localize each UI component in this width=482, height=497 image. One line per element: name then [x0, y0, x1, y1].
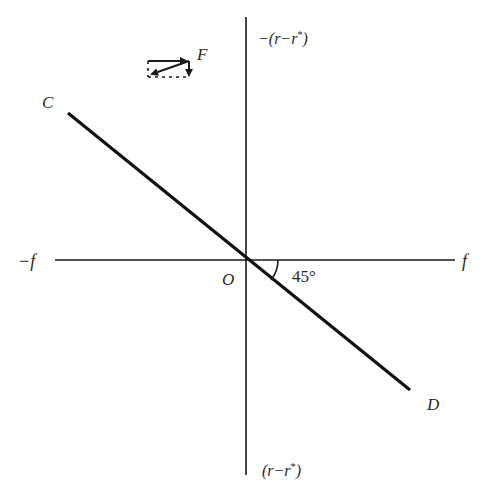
bottom-axis-label: (r−r*) — [262, 462, 301, 479]
top-axis-label-close: ) — [303, 30, 308, 47]
force-inset — [148, 61, 189, 77]
point-d-label: D — [427, 396, 439, 413]
point-c-label: C — [42, 94, 53, 111]
diagram-canvas: F C D −f f O 45° −(r−r*) (r−r*) — [0, 0, 482, 497]
angle-label: 45° — [292, 268, 316, 285]
bottom-axis-label-close: ) — [296, 462, 301, 479]
pos-f-axis-label: f — [462, 252, 467, 270]
top-axis-label: −(r−r*) — [258, 30, 308, 47]
origin-label: O — [222, 271, 234, 288]
force-label: F — [197, 46, 207, 63]
diagram-svg — [0, 0, 482, 497]
line-cd — [68, 113, 410, 390]
top-axis-label-text: −(r−r — [258, 30, 297, 47]
force-resultant-arrow — [152, 61, 189, 74]
neg-f-axis-label: −f — [18, 252, 35, 270]
bottom-axis-label-text: (r−r — [262, 462, 291, 479]
